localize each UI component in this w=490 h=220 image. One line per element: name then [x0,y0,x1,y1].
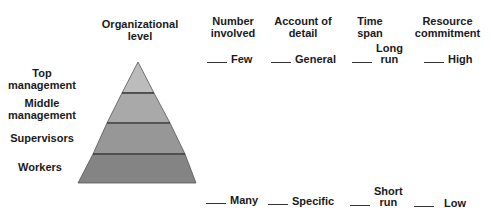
value-long-run: Long run [352,43,403,65]
value-general: General [271,53,336,65]
level-label-supervisors: Supervisors [8,132,76,144]
pyramid-tier-top-management [122,62,154,93]
blank-line [350,205,370,206]
pyramid-tier-supervisors [93,123,185,154]
blank-line [206,203,226,204]
blank-line [414,206,434,207]
blank-line [268,204,288,205]
level-label-top-management: Top management [8,67,76,91]
header-number-involved: Number involved [203,15,263,39]
value-many: Many [206,194,258,206]
blank-line [207,62,227,63]
header-account-of-detail: Account of detail [268,15,338,39]
blank-line [271,62,291,63]
pyramid-tier-middle-management [107,93,170,123]
value-short-run: Short run [350,186,403,208]
header-time-span: Time span [350,15,390,39]
value-few: Few [207,53,252,65]
header-organizational-level: Organizational level [100,18,180,42]
level-label-workers: Workers [6,161,74,173]
level-label-middle-management: Middle management [8,97,76,121]
header-resource-commitment: Resource commitment [410,15,485,39]
blank-line [352,62,372,63]
value-specific: Specific [268,195,334,207]
value-high: High [424,53,472,65]
blank-line [424,62,444,63]
pyramid-tier-workers [78,154,196,183]
value-low: Low [414,197,466,209]
